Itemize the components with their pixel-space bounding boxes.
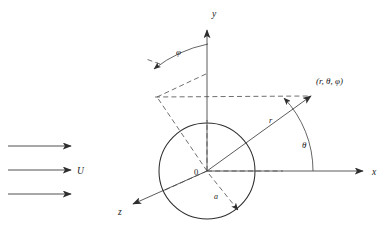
dashed-horizontal-projection	[155, 96, 310, 97]
y-axis-label: y	[211, 9, 217, 19]
x-axis-label: x	[371, 167, 377, 177]
dashed-phi-ray-extension	[146, 59, 160, 64]
freestream-flow-group: U	[8, 146, 85, 194]
radial-vector-group: r (r, θ, φ)	[207, 76, 343, 171]
theta-angle-group: θ	[284, 98, 313, 171]
radius-label: a	[214, 192, 218, 201]
freestream-velocity-label: U	[77, 166, 85, 176]
phi-angle-label: φ	[176, 47, 181, 57]
figure-root: U x y z	[0, 0, 390, 238]
point-coordinates-label: (r, θ, φ)	[316, 76, 343, 86]
z-axis-label: z	[117, 207, 122, 217]
spherical-coordinate-diagram: U x y z	[0, 0, 390, 238]
phi-arc	[154, 44, 208, 69]
dashed-origin-to-projection	[157, 97, 207, 171]
axes-group: x y z	[117, 9, 377, 217]
radial-vector-line	[207, 96, 311, 171]
origin-label: 0	[194, 167, 198, 177]
theta-angle-label: θ	[302, 140, 307, 150]
phi-angle-group: φ	[146, 44, 208, 69]
dashed-projection-to-y-axis	[157, 73, 208, 97]
theta-arc	[284, 98, 313, 171]
